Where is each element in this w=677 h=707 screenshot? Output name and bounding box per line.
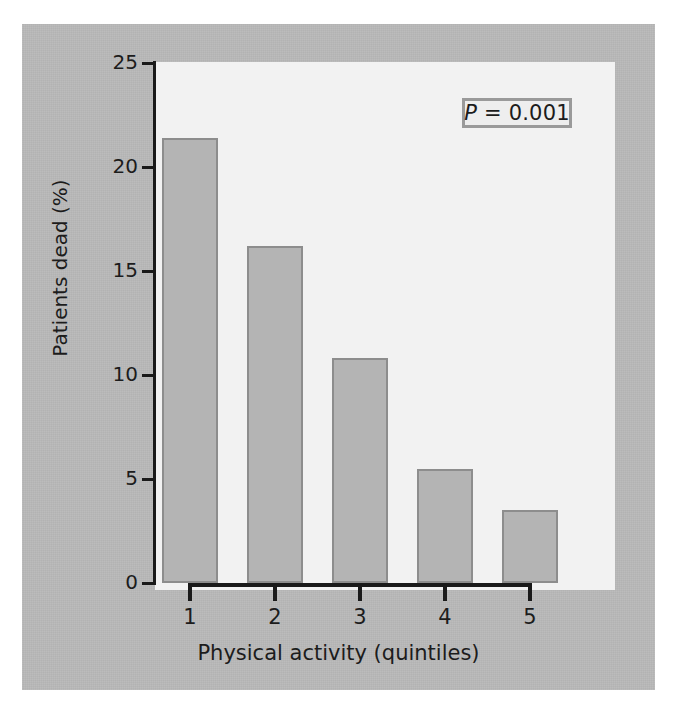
x-axis-tick xyxy=(273,583,277,601)
p-value-text: = 0.001 xyxy=(477,101,570,125)
p-value-annotation: P = 0.001 xyxy=(462,98,572,128)
x-axis-tick-label: 2 xyxy=(245,607,305,628)
x-axis-tick xyxy=(358,583,362,601)
x-axis-tick xyxy=(443,583,447,601)
y-axis-tick xyxy=(142,582,156,585)
x-axis-tick-label: 3 xyxy=(330,607,390,628)
y-axis-tick xyxy=(142,478,156,481)
y-axis-tick xyxy=(142,62,156,65)
x-axis-tick-label: 1 xyxy=(160,607,220,628)
bar-3 xyxy=(332,358,388,583)
y-axis-tick-label: 5 xyxy=(38,468,138,488)
y-axis-tick-label: 25 xyxy=(38,52,138,72)
y-axis-ticks: 0510152025 xyxy=(24,24,138,690)
bar-2 xyxy=(247,246,303,583)
y-axis-title: Patients dead (%) xyxy=(48,138,72,398)
bar-1 xyxy=(162,138,218,583)
x-axis-title: Physical activity (quintiles) xyxy=(22,641,655,665)
y-axis-tick xyxy=(142,374,156,377)
y-axis-tick xyxy=(142,166,156,169)
bar-4 xyxy=(417,469,473,583)
bar-5 xyxy=(502,510,558,583)
x-axis-tick-label: 5 xyxy=(500,607,560,628)
p-value-symbol: P xyxy=(464,101,477,125)
x-axis-tick xyxy=(528,583,532,601)
y-axis-tick-label: 0 xyxy=(38,572,138,592)
y-axis-line xyxy=(153,61,156,584)
x-axis-tick-label: 4 xyxy=(415,607,475,628)
y-axis-tick xyxy=(142,270,156,273)
x-axis-tick xyxy=(188,583,192,601)
figure-panel: 0510152025 12345 Patients dead (%) Physi… xyxy=(22,24,655,690)
